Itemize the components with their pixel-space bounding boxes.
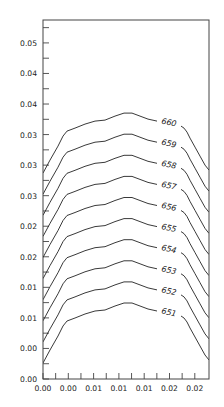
- x-tick-label: 0.01: [110, 384, 127, 393]
- contour-line-657: [43, 176, 157, 236]
- contour-line-653-right: [181, 274, 209, 318]
- y-tick-label: 0.04: [20, 100, 37, 109]
- contour-line-656: [43, 198, 157, 258]
- contour-label: 653: [160, 264, 177, 276]
- contour-label: 655: [160, 222, 177, 234]
- y-tick-label: 0.02: [20, 222, 37, 231]
- y-tick-label: 0.00: [20, 375, 37, 384]
- y-axis-tick-labels: 0.000.000.010.010.020.020.030.030.030.04…: [20, 39, 37, 384]
- contour-label: 656: [160, 201, 177, 213]
- x-tick-label: 0.00: [60, 384, 77, 393]
- contour-line-654-right: [181, 253, 209, 297]
- contour-line-653: [43, 261, 157, 321]
- y-tick-label: 0.03: [20, 161, 37, 170]
- contour-label: 659: [160, 138, 177, 150]
- contour-line-659: [43, 134, 157, 194]
- contour-labels: 651652653654655656657658659660: [160, 117, 178, 319]
- contour-label: 652: [160, 285, 177, 297]
- x-tick-label: 0.01: [136, 384, 153, 393]
- contour-line-656-right: [181, 211, 209, 255]
- contour-label: 651: [160, 306, 177, 318]
- contour-line-651: [43, 303, 157, 363]
- contour-line-652: [43, 282, 157, 342]
- contour-label: 657: [160, 180, 178, 192]
- contour-line-658: [43, 155, 157, 215]
- x-tick-label: 0.02: [161, 384, 178, 393]
- y-tick-label: 0.04: [20, 69, 37, 78]
- contour-lines: [43, 113, 209, 363]
- contour-label: 660: [160, 117, 177, 129]
- y-tick-label: 0.03: [20, 131, 37, 140]
- contour-line-660-right: [181, 126, 209, 170]
- y-tick-label: 0.03: [20, 192, 37, 201]
- x-axis-tick-labels: 0.000.000.010.010.010.020.02: [35, 384, 204, 393]
- contour-line-659-right: [181, 147, 209, 191]
- contour-chart: 651652653654655656657658659660 0.000.000…: [0, 0, 224, 407]
- contour-line-652-right: [181, 295, 209, 339]
- x-tick-label: 0.01: [85, 384, 102, 393]
- contour-line-655-right: [181, 232, 209, 276]
- y-tick-label: 0.02: [20, 253, 37, 262]
- contour-line-657-right: [181, 189, 209, 233]
- x-tick-label: 0.00: [35, 384, 52, 393]
- contour-line-654: [43, 240, 157, 300]
- contour-label: 654: [160, 243, 177, 255]
- plot-frame: [43, 20, 209, 379]
- y-tick-label: 0.01: [20, 314, 37, 323]
- contour-label: 658: [160, 159, 177, 171]
- contour-line-655: [43, 219, 157, 279]
- y-tick-label: 0.01: [20, 283, 37, 292]
- y-tick-label: 0.00: [20, 344, 37, 353]
- x-tick-label: 0.02: [186, 384, 203, 393]
- contour-line-660: [43, 113, 157, 173]
- y-tick-label: 0.05: [20, 39, 37, 48]
- contour-line-651-right: [181, 316, 209, 360]
- contour-line-658-right: [181, 168, 209, 212]
